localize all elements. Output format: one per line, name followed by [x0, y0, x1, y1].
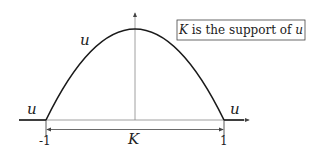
- curve-label: u: [80, 31, 90, 49]
- support-label: K: [128, 130, 139, 148]
- caption: K is the support of u: [177, 20, 305, 40]
- right-zero-label: u: [230, 100, 240, 118]
- caption-math-k: K: [179, 23, 188, 37]
- caption-math-u: u: [295, 23, 303, 37]
- caption-text: is the support of: [188, 23, 295, 37]
- tick-label-minus-one: -1: [39, 134, 51, 148]
- left-zero-label: u: [27, 100, 37, 118]
- tick-label-one: 1: [220, 134, 228, 148]
